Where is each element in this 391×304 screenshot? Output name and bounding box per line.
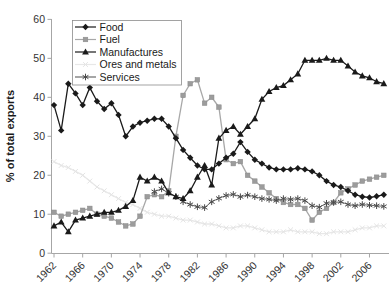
legend-manufactures-label: Manufactures [100, 46, 164, 58]
y-axis-title: % of total exports [4, 90, 16, 182]
y-tick-label-3: 30 [33, 130, 45, 142]
x-tick-label-4: 1978 [148, 259, 173, 284]
x-tick-label-11: 2006 [349, 259, 374, 284]
exports-line-chart: 0102030405060196219661970197419781982198… [0, 0, 391, 304]
legend: FoodFuelManufacturesOres and metalsServi… [73, 21, 182, 86]
y-tick-label-5: 50 [33, 52, 45, 64]
x-tick-label-3: 1974 [119, 259, 144, 284]
x-tick-label-0: 1962 [33, 259, 58, 284]
legend-fuel-label: Fuel [100, 33, 120, 45]
x-tick-label-5: 1982 [177, 259, 202, 284]
y-tick-label-6: 60 [33, 13, 45, 25]
legend-ores-and-metals-label: Ores and metals [100, 58, 177, 70]
x-tick-label-6: 1986 [205, 259, 230, 284]
chart-container: 0102030405060196219661970197419781982198… [0, 0, 391, 304]
series-services [152, 186, 387, 211]
x-tick-label-10: 2002 [320, 259, 345, 284]
x-tick-label-7: 1990 [234, 259, 259, 284]
series-fuel [52, 78, 386, 229]
legend-services-label: Services [100, 71, 140, 83]
x-tick-label-2: 1970 [91, 259, 116, 284]
y-tick-label-2: 20 [33, 169, 45, 181]
x-tick-label-1: 1966 [62, 259, 87, 284]
x-tick-label-9: 1998 [292, 259, 317, 284]
y-tick-label-4: 40 [33, 91, 45, 103]
y-tick-label-0: 0 [39, 247, 45, 259]
y-tick-label-1: 10 [33, 208, 45, 220]
legend-food-label: Food [100, 21, 124, 33]
x-tick-label-8: 1994 [263, 259, 288, 284]
